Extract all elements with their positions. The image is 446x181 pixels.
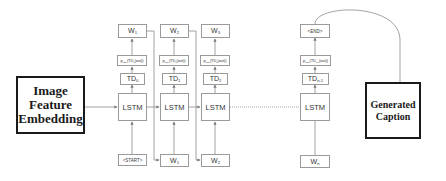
lstm-cell-3: LSTM (201, 93, 230, 121)
caption-label-line-1: Generated (371, 99, 416, 111)
input-token-label: W (211, 157, 218, 164)
lstm-cell-2: LSTM (160, 93, 189, 121)
lstm-caption-diagram: Image Feature Embedding Generated Captio… (0, 0, 446, 181)
input-token-box-n: Wn (300, 155, 330, 168)
input-token-box-3: W2 (201, 154, 230, 167)
input-token-index: 2 (218, 160, 220, 165)
output-word-label: W (211, 27, 218, 34)
lstm-label: LSTM (164, 103, 184, 112)
input-token-label: <START> (123, 158, 143, 163)
time-distributed-box-n: TDn-1 (302, 73, 329, 85)
lstm-label: LSTM (205, 103, 225, 112)
time-distributed-box-1: TD0 (120, 73, 145, 85)
td-label: TD (308, 75, 317, 82)
embedding-label-line-3: Embedding (18, 112, 82, 126)
softmax-box-n: pmax(TDn-1(out)) (300, 55, 331, 66)
input-token-label: W (170, 157, 177, 164)
output-word-index: 1 (135, 30, 137, 35)
output-word-box-3: W3 (201, 24, 230, 38)
softmax-arg-end: (out)) (134, 58, 143, 63)
input-token-box-1: <START> (118, 154, 147, 166)
td-label: TD (210, 75, 219, 82)
embedding-label-line-2: Feature (18, 98, 82, 112)
output-word-box-1: W1 (118, 24, 147, 38)
output-word-box-n: <END> (300, 24, 330, 38)
lstm-label: LSTM (305, 103, 325, 112)
input-token-box-2: W1 (160, 154, 189, 167)
softmax-arg-end: (out)) (176, 58, 185, 63)
td-label: TD (169, 75, 178, 82)
td-index: 2 (219, 78, 221, 83)
generated-caption-block: Generated Caption (365, 82, 421, 139)
softmax-arg-end: (out)) (217, 58, 226, 63)
lstm-label: LSTM (122, 103, 142, 112)
output-word-box-2: W2 (160, 24, 189, 38)
embedding-label-line-1: Image (18, 84, 82, 98)
caption-label-line-2: Caption (371, 111, 416, 123)
softmax-box-2: pmax(TD1(out)) (159, 55, 189, 66)
image-feature-embedding-block: Image Feature Embedding (16, 76, 85, 134)
input-token-index: 1 (177, 160, 179, 165)
output-word-label: W (170, 27, 177, 34)
output-word-label: W (128, 27, 135, 34)
softmax-box-3: pmax(TD2(out)) (200, 55, 230, 66)
td-index: n-1 (317, 78, 323, 83)
output-word-index: 3 (218, 30, 220, 35)
td-index: 0 (136, 78, 138, 83)
time-distributed-box-3: TD2 (203, 73, 228, 85)
lstm-cell-n: LSTM (300, 93, 330, 121)
input-token-index: n (317, 161, 319, 166)
softmax-box-1: pmax(TD0(out)) (117, 55, 147, 66)
time-distributed-box-2: TD1 (162, 73, 187, 85)
td-index: 1 (178, 78, 180, 83)
softmax-arg-end: (out)) (319, 58, 328, 63)
td-label: TD (127, 75, 136, 82)
output-word-label: <END> (308, 29, 323, 34)
output-word-index: 2 (177, 30, 179, 35)
lstm-cell-1: LSTM (118, 93, 147, 121)
